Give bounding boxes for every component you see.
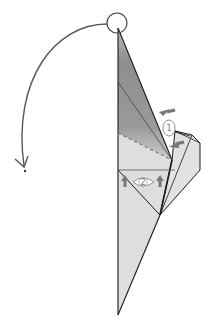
rotate-fold-arrow-icon (15, 24, 107, 172)
push-arrow-icon (159, 109, 175, 116)
step-2-label: 2 (141, 178, 146, 187)
fold-point-circle (107, 13, 127, 33)
step-1-label: 1 (167, 124, 172, 133)
paper-lower-body (118, 128, 172, 315)
origami-diagram: 1 2 (0, 0, 213, 330)
